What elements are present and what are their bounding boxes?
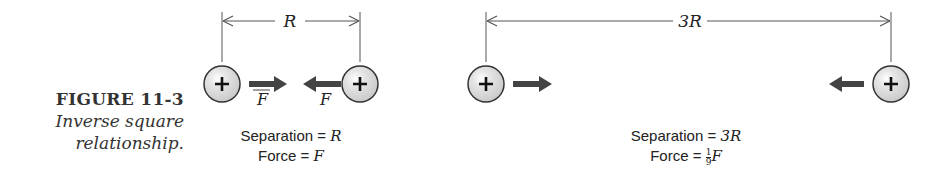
force-value: F [711,147,721,165]
separation-label-close: Separation = R [211,126,371,146]
separation-label-far: Separation = 3R [606,126,766,146]
separation-value: 3R [720,127,741,145]
panel-close-labels: Separation = R Force = F [211,126,371,166]
force-label-f-right: F [319,90,332,109]
charge-right-close [342,66,378,102]
force-arrow-right-far [513,76,552,92]
force-arrow-left-far [829,76,864,92]
force-value: F [314,147,324,165]
force-text: Force = [650,147,705,164]
force-label-far: Force = 19F [606,146,766,167]
charge-left-close [204,66,240,102]
separation-text: Separation = [631,127,721,144]
force-label-f-left: F [256,90,269,109]
charge-right-far [873,66,909,102]
force-label-close: Force = F [211,146,371,166]
figure-description-line2: relationship. [0,132,184,154]
figure-caption: FIGURE 11-3 Inverse square relationship. [0,88,184,154]
separation-text: Separation = [241,127,331,144]
dimension-label-3r: 3R [678,11,702,31]
panel-far-labels: Separation = 3R Force = 19F [606,126,766,167]
figure-description-line1: Inverse square [0,110,184,132]
charge-left-far [468,66,504,102]
inverse-square-figure: R F F 3R [0,0,946,190]
dimension-label-r: R [283,11,297,31]
figure-number: FIGURE 11-3 [0,88,184,110]
separation-value: R [330,127,341,145]
force-text: Force = [258,147,313,164]
